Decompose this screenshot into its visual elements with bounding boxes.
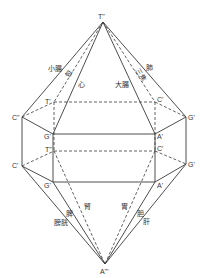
label-small-intestine: 小腸 bbox=[48, 64, 62, 73]
organ-annotations: 小腸 包 心 大腸 三焦 肺 脾 膀胱 腎 胃 胆 肝 bbox=[48, 64, 153, 227]
lower-pyramid-edges bbox=[22, 151, 186, 264]
vertex-label-lower-front-right: A' bbox=[157, 182, 163, 189]
label-spleen: 脾 bbox=[66, 209, 73, 218]
vertex-label-upper-front-right: A' bbox=[157, 133, 163, 140]
label-liver: 肝 bbox=[143, 218, 150, 226]
upper-pyramid-edges bbox=[22, 22, 186, 134]
label-gallbladder: 胆 bbox=[137, 210, 144, 218]
vertex-label-upper-left: C" bbox=[12, 114, 20, 121]
vertex-label-upper-front-left: G' bbox=[44, 133, 51, 140]
vertex-labels: T" T' C' C" G' G' A' T" C' C' G' G' A' A… bbox=[12, 13, 195, 275]
label-bladder: 膀胱 bbox=[54, 218, 68, 227]
bipyramid-diagram: T" T' C' C" G' G' A' T" C' C' G' G' A' A… bbox=[0, 0, 202, 278]
vertex-label-lower-left: C' bbox=[12, 162, 18, 169]
vertex-label-upper-right: G' bbox=[188, 114, 195, 121]
label-kidney: 腎 bbox=[84, 202, 91, 211]
vertex-label-upper-back-right: C' bbox=[157, 96, 163, 103]
vertex-label-lower-back-right: C' bbox=[157, 145, 163, 152]
vertex-label-top: T" bbox=[98, 13, 105, 20]
vertex-label-upper-back-left: T' bbox=[45, 98, 51, 105]
label-pericardium: 包 bbox=[63, 68, 74, 79]
vertex-label-bottom: A"' bbox=[100, 268, 109, 275]
vertex-label-lower-front-left: G' bbox=[44, 182, 51, 189]
vertex-label-lower-back-left: T" bbox=[45, 146, 52, 153]
label-heart: 心 bbox=[78, 81, 85, 89]
label-stomach: 胃 bbox=[121, 203, 128, 211]
label-lung: 肺 bbox=[146, 64, 153, 72]
lower-hexagon bbox=[22, 151, 186, 182]
upper-hexagon bbox=[22, 102, 186, 134]
vertex-label-lower-right: G' bbox=[188, 161, 195, 168]
prism-vertical-edges bbox=[22, 102, 186, 182]
label-large-intestine: 大腸 bbox=[115, 80, 129, 89]
